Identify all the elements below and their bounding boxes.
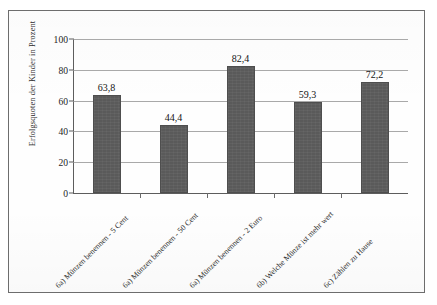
y-axis-tick-mark xyxy=(69,162,74,163)
y-axis-tick-mark xyxy=(69,69,74,70)
x-axis-category-label: 6c) Zählen zu Hause xyxy=(321,237,374,290)
y-axis-tick-mark xyxy=(69,100,74,101)
y-axis-tick-mark xyxy=(69,39,74,40)
y-axis-tick-label: 100 xyxy=(54,34,68,45)
bar xyxy=(294,102,322,193)
bar-value-label: 63,8 xyxy=(98,82,116,93)
bar-value-label: 72,2 xyxy=(366,69,384,80)
x-axis-category-label: 6a) Münzen benennen - 5 Cent xyxy=(53,214,129,290)
y-axis-tick-label: 0 xyxy=(63,188,68,199)
figure-frame: Erfolgsquoten der Kinder in Prozent 0204… xyxy=(8,10,425,293)
y-axis-title: Erfolgsquoten der Kinder in Prozent xyxy=(28,0,37,169)
x-axis-tick-mark xyxy=(140,193,141,198)
x-axis-category-label: 6a) Münzen benennen - 50 Cent xyxy=(120,211,199,290)
y-axis-tick-label: 80 xyxy=(58,64,68,75)
x-axis-tick-mark xyxy=(341,193,342,198)
y-axis-tick-label: 40 xyxy=(58,126,68,137)
x-axis-tick-mark xyxy=(207,193,208,198)
x-axis-tick-mark xyxy=(274,193,275,198)
x-axis-category-label: 6a) Münzen benennen - 2 Euro xyxy=(187,213,264,290)
plot-box: 02040608010063,844,482,459,372,2 xyxy=(73,39,408,193)
plot-area: 02040608010063,844,482,459,372,2 xyxy=(73,29,408,193)
bar-value-label: 82,4 xyxy=(232,53,250,64)
x-axis-baseline xyxy=(73,193,408,194)
y-axis-tick-mark xyxy=(69,193,74,194)
y-axis-tick-label: 20 xyxy=(58,157,68,168)
gridline xyxy=(73,39,408,40)
y-axis-tick-label: 60 xyxy=(58,95,68,106)
bar-value-label: 59,3 xyxy=(299,89,317,100)
x-axis-category-label: 6b) Welche Münze ist mehr wert xyxy=(254,210,334,290)
bar xyxy=(160,125,188,193)
y-axis-tick-mark xyxy=(69,131,74,132)
bar xyxy=(361,82,389,193)
bar xyxy=(93,95,121,193)
bar xyxy=(227,66,255,193)
bar-value-label: 44,4 xyxy=(165,112,183,123)
